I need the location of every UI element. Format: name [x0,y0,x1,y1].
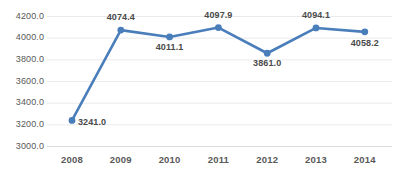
x-axis-tick-label: 2014 [340,154,390,165]
y-axis-tick-label: 3200.0 [4,119,44,129]
data-point-marker [69,117,76,124]
series-markers [69,24,369,124]
series-line [72,28,365,121]
line-chart: 4200.04000.03800.03600.03400.03200.03000… [0,0,394,176]
data-point-marker [361,28,368,35]
y-axis-tick-label: 3000.0 [4,141,44,151]
data-point-marker [313,25,320,32]
x-axis-tick-label: 2009 [96,154,146,165]
data-point-marker [166,34,173,41]
data-point-marker [215,24,222,31]
x-axis-tick-label: 2008 [47,154,97,165]
data-point-label: 3861.0 [242,58,292,68]
data-point-marker [264,50,271,57]
x-axis-tick-label: 2010 [145,154,195,165]
y-axis-tick-label: 4200.0 [4,11,44,21]
x-axis-tick-label: 2011 [193,154,243,165]
data-point-label: 4097.9 [193,10,243,20]
data-point-label: 4011.1 [145,42,195,52]
y-axis-tick-label: 4000.0 [4,32,44,42]
data-point-label: 4074.4 [96,12,146,22]
y-axis-tick-label: 3400.0 [4,97,44,107]
data-point-label: 4094.1 [291,10,341,20]
y-axis-tick-label: 3800.0 [4,54,44,64]
y-axis-tick-label: 3600.0 [4,76,44,86]
x-axis-tick-label: 2012 [242,154,292,165]
data-point-marker [117,27,124,34]
data-point-label: 3241.0 [78,117,106,127]
x-axis-tick-label: 2013 [291,154,341,165]
data-point-label: 4058.2 [340,38,390,48]
chart-plot-area [0,0,394,176]
